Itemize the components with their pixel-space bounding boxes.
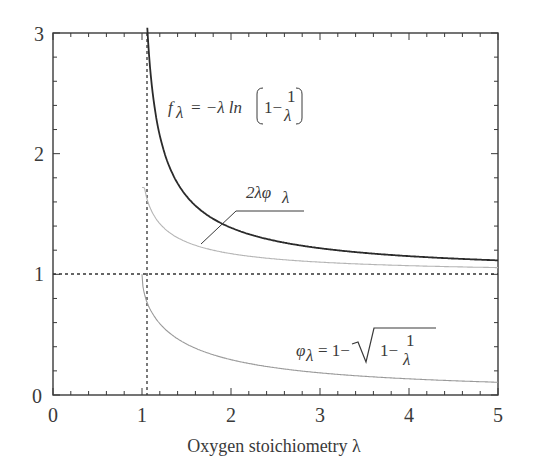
x-tick-label: 4 (404, 404, 414, 426)
phi-frac-numerator: 1 (406, 331, 415, 350)
x-tick-label: 0 (48, 404, 58, 426)
f-one-minus: 1− (264, 98, 282, 117)
y-tick-label: 3 (34, 23, 44, 45)
right-paren (296, 88, 302, 124)
left-paren (257, 88, 263, 124)
mid-subscript: λ (281, 188, 289, 207)
f-subscript: λ (175, 103, 183, 122)
x-tick-label: 5 (493, 404, 503, 426)
frac-numerator: 1 (287, 87, 296, 106)
y-tick-label: 0 (32, 385, 42, 407)
x-axis-ticks (53, 33, 498, 395)
plot-frame (53, 33, 498, 395)
leader-line (201, 211, 304, 244)
x-axis-title: Oxygen stoichiometry λ (187, 436, 361, 456)
x-tick-label: 2 (226, 404, 236, 426)
curve-2-lambda-phi (142, 188, 498, 268)
phi-symbol: φ (296, 341, 305, 360)
annotation-phi-lambda: φ λ = 1− 1− 1 λ (296, 328, 436, 369)
mid-label: 2λφ (246, 183, 271, 202)
phi-frac-denominator: λ (402, 350, 410, 369)
x-tick-label: 3 (315, 404, 325, 426)
frac-denominator: λ (283, 106, 291, 125)
phi-subscript: λ (305, 346, 313, 365)
annotation-f-lambda: f λ = −λ ln 1− 1 λ (168, 87, 302, 125)
phi-inner: 1− (380, 341, 398, 360)
y-axis-ticks (53, 33, 498, 395)
y-tick-label: 2 (34, 143, 44, 165)
y-tick-label: 1 (34, 263, 44, 285)
f-symbol: f (168, 98, 175, 117)
phi-rhs: = 1− (318, 341, 350, 360)
curve-phi-lambda (142, 274, 498, 382)
f-rhs: = −λ ln (190, 98, 242, 117)
chart-svg: 0 1 2 3 4 5 0 1 2 3 Oxygen stoichiometry… (0, 0, 550, 473)
x-tick-label: 1 (137, 404, 147, 426)
curve-f-lambda (147, 28, 498, 261)
